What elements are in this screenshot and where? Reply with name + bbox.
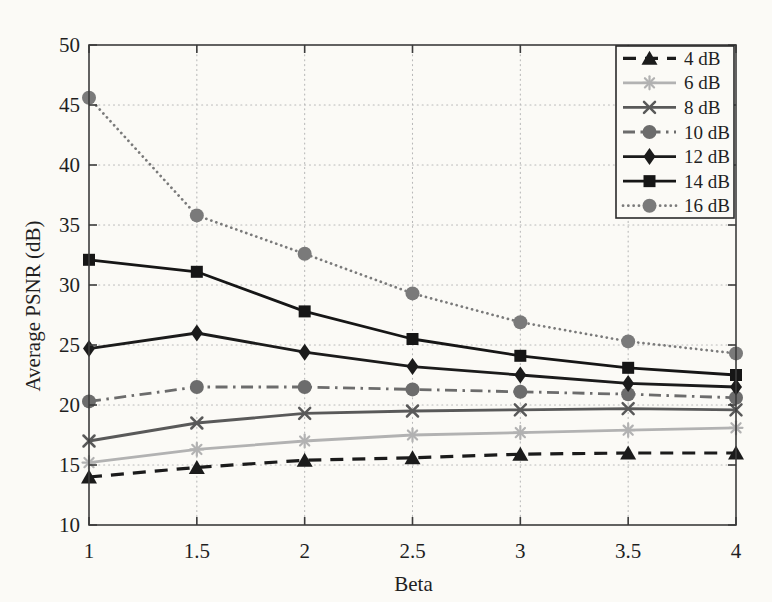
asterisk-marker [190, 443, 203, 456]
y-tick-label: 15 [59, 453, 80, 477]
circle-marker [643, 199, 657, 213]
x-axis-label: Beta [394, 572, 433, 596]
square-marker [407, 333, 419, 345]
psnr-chart: 11.522.533.54101520253035404550BetaAvera… [0, 0, 772, 602]
circle-marker [406, 382, 420, 396]
square-marker [191, 266, 203, 278]
legend-label: 14 dB [684, 171, 730, 192]
x-tick-label: 1.5 [184, 539, 210, 563]
legend-label: 16 dB [684, 195, 730, 216]
legend-label: 6 dB [684, 72, 720, 93]
y-tick-label: 40 [59, 153, 80, 177]
circle-marker [298, 380, 312, 394]
asterisk-marker [643, 76, 656, 89]
x-tick-label: 1 [84, 539, 95, 563]
y-tick-label: 10 [59, 513, 80, 537]
circle-marker [513, 315, 527, 329]
legend-label: 10 dB [684, 122, 730, 143]
asterisk-marker [298, 435, 311, 448]
y-tick-label: 45 [59, 93, 80, 117]
x-tick-label: 3.5 [615, 539, 641, 563]
y-tick-label: 25 [59, 333, 80, 357]
square-marker [299, 305, 311, 317]
x-tick-label: 4 [731, 539, 742, 563]
y-tick-label: 35 [59, 213, 80, 237]
legend-label: 8 dB [684, 97, 720, 118]
square-marker [622, 362, 634, 374]
x-tick-label: 2.5 [399, 539, 425, 563]
circle-marker [513, 385, 527, 399]
y-tick-label: 50 [59, 33, 80, 57]
x-tick-label: 2 [299, 539, 310, 563]
circle-marker [621, 334, 635, 348]
circle-marker [298, 247, 312, 261]
x-tick-label: 3 [515, 539, 526, 563]
legend-label: 4 dB [684, 48, 720, 69]
legend-label: 12 dB [684, 146, 730, 167]
y-tick-label: 30 [59, 273, 80, 297]
figure: 11.522.533.54101520253035404550BetaAvera… [0, 0, 772, 602]
circle-marker [406, 286, 420, 300]
circle-marker [643, 125, 657, 139]
asterisk-marker [406, 429, 419, 442]
asterisk-marker [622, 424, 635, 437]
circle-marker [190, 208, 204, 222]
square-marker [514, 350, 526, 362]
legend: 4 dB6 dB8 dB10 dB12 dB14 dB16 dB [616, 46, 734, 218]
y-axis-label: Average PSNR (dB) [21, 220, 45, 391]
y-tick-label: 20 [59, 393, 80, 417]
asterisk-marker [514, 426, 527, 439]
circle-marker [190, 380, 204, 394]
square-marker [644, 175, 656, 187]
